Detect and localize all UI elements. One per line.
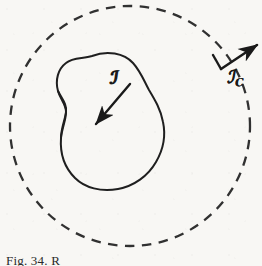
- outward-normal-vector-arrow: [213, 45, 257, 69]
- dashed-boundary-circle: [10, 6, 250, 246]
- outer-vector-label-subscript: C: [235, 76, 245, 90]
- inward-normal-vector-arrow: [96, 84, 130, 124]
- outer-vector-label: ℐC: [226, 68, 244, 86]
- figure-container: ℐ ℐC Fig. 34. R: [0, 0, 262, 266]
- figure-caption: Fig. 34. R: [6, 253, 256, 266]
- inner-vector-label: ℐ: [108, 69, 118, 87]
- figure-drawing-canvas: [0, 0, 262, 266]
